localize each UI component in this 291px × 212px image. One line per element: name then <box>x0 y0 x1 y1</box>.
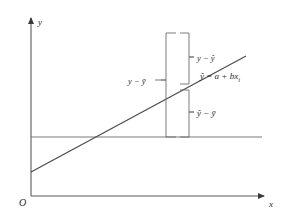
regression-decomposition-figure: y x O y − ȳ y − ŷ ŷ − ȳ ŷ = a + bxi <box>0 0 291 212</box>
regression-equation-subscript: i <box>238 76 240 83</box>
origin-label: O <box>19 197 26 208</box>
y-axis-label: y <box>37 17 42 27</box>
unexplained-deviation-bracket <box>180 33 194 84</box>
total-deviation-label: y − ȳ <box>127 76 146 86</box>
regression-equation-text: ŷ = a + bx <box>199 71 238 81</box>
x-axis-label: x <box>268 199 273 209</box>
explained-deviation-bracket <box>180 90 194 137</box>
unexplained-deviation-label: y − ŷ <box>196 53 215 63</box>
total-deviation-bracket <box>161 33 176 137</box>
regression-equation-label: ŷ = a + bxi <box>199 71 240 83</box>
explained-deviation-label: ŷ − ȳ <box>196 108 217 118</box>
